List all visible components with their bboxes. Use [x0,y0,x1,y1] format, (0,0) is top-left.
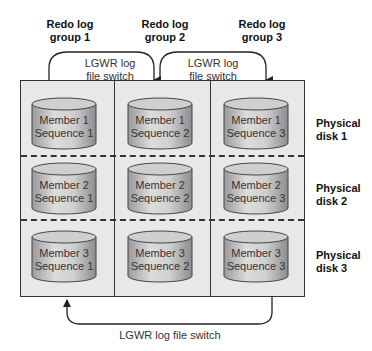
disk-2-line2: disk 2 [316,195,361,208]
disk-3-line2: disk 3 [316,262,361,275]
redo-log-member-cylinder: Member 3Sequence 1 [31,230,97,284]
cylinder-label: Member 1Sequence 1 [31,114,97,140]
switch-1-line1: LGWR log [75,57,145,70]
cylinder-label: Member 1Sequence 2 [127,114,193,140]
member-label: Member 3 [31,247,97,260]
sequence-label: Sequence 3 [223,127,289,140]
redo-log-member-cylinder: Member 1Sequence 1 [31,97,97,151]
redo-log-member-cylinder: Member 1Sequence 3 [223,97,289,151]
cylinder-label: Member 2Sequence 3 [223,179,289,205]
disk-label-3: Physical disk 3 [316,249,361,275]
disk-label-2: Physical disk 2 [316,182,361,208]
redo-log-member-cylinder: Member 2Sequence 2 [127,162,193,216]
disk-1-line2: disk 1 [316,130,361,143]
member-label: Member 2 [31,179,97,192]
sequence-label: Sequence 1 [31,260,97,273]
redo-log-member-cylinder: Member 2Sequence 3 [223,162,289,216]
disk-3-line1: Physical [316,249,361,262]
cylinder-label: Member 3Sequence 3 [223,247,289,273]
member-label: Member 2 [127,179,193,192]
redo-log-member-cylinder: Member 3Sequence 3 [223,230,289,284]
sequence-label: Sequence 1 [31,127,97,140]
sequence-label: Sequence 3 [223,260,289,273]
column-divider [210,81,211,296]
redo-log-member-cylinder: Member 3Sequence 2 [127,230,193,284]
member-label: Member 2 [223,179,289,192]
disk-2-line1: Physical [316,182,361,195]
disk-label-1: Physical disk 1 [316,117,361,143]
switch-label-bottom: LGWR log file switch [100,329,240,342]
disk-1-line1: Physical [316,117,361,130]
sequence-label: Sequence 1 [31,192,97,205]
member-label: Member 1 [223,114,289,127]
sequence-label: Sequence 2 [127,260,193,273]
member-label: Member 1 [127,114,193,127]
redo-log-member-cylinder: Member 1Sequence 2 [127,97,193,151]
cylinder-label: Member 2Sequence 2 [127,179,193,205]
redo-log-member-cylinder: Member 2Sequence 1 [31,162,97,216]
column-divider [114,81,115,296]
cylinder-label: Member 3Sequence 1 [31,247,97,273]
arrow-switch-3-to-1 [67,297,272,324]
sequence-label: Sequence 3 [223,192,289,205]
member-label: Member 1 [31,114,97,127]
disk-divider [21,219,304,221]
cylinder-label: Member 3Sequence 2 [127,247,193,273]
cylinder-label: Member 2Sequence 1 [31,179,97,205]
switch-2-line1: LGWR log [178,57,248,70]
sequence-label: Sequence 2 [127,127,193,140]
member-label: Member 3 [223,247,289,260]
cylinder-label: Member 1Sequence 3 [223,114,289,140]
member-label: Member 3 [127,247,193,260]
disk-divider [21,155,304,157]
sequence-label: Sequence 2 [127,192,193,205]
